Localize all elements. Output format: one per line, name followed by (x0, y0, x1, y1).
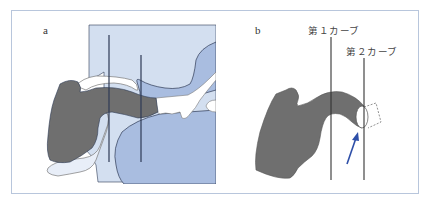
panel-a-label: a (43, 24, 48, 36)
panel-a-illustration (47, 25, 216, 184)
gray-tube-b (256, 88, 365, 178)
tube-tip-opening (356, 106, 368, 128)
panel-b-illustration (256, 37, 382, 180)
first-curve-label: 第１カーブ (308, 23, 360, 37)
second-curve-label: 第２カーブ (346, 44, 398, 58)
panel-b-label: b (255, 24, 261, 36)
diagram-canvas (0, 0, 430, 204)
blue-arrow-icon (347, 132, 359, 164)
